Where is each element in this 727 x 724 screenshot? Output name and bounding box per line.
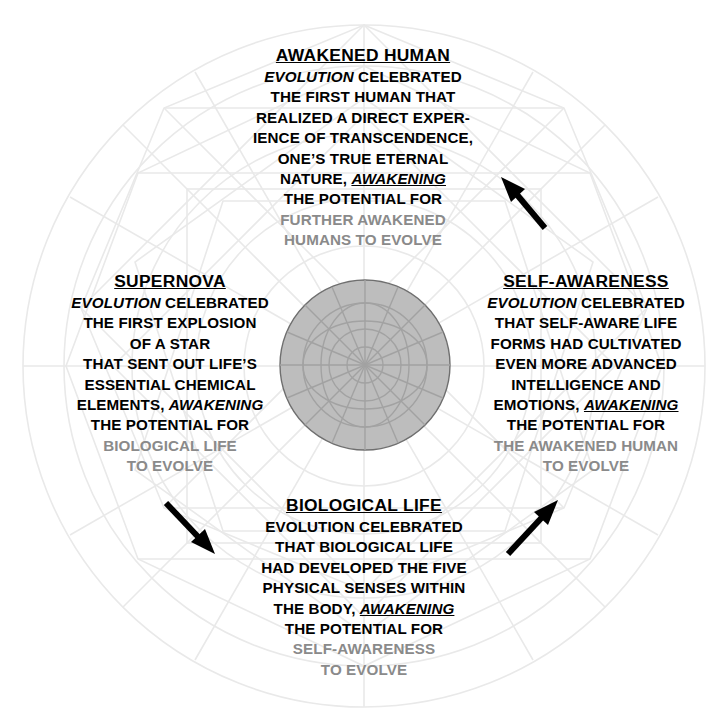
center-spokes bbox=[280, 280, 450, 450]
center-disc-group bbox=[280, 280, 450, 450]
block-supernova: SUPERNOVA EVOLUTION CELEBRATED THE FIRST… bbox=[71, 270, 268, 477]
block-title-self-awareness: SELF-AWARENESS bbox=[487, 270, 684, 293]
block-line-secondary: BIOLOGICAL LIFE bbox=[71, 436, 268, 456]
block-self-awareness: SELF-AWARENESS EVOLUTION CELEBRATED THAT… bbox=[487, 270, 684, 477]
block-line: EVOLUTION CELEBRATED bbox=[253, 67, 473, 87]
emphasis-evolution: EVOLUTION bbox=[71, 294, 161, 311]
block-line: THE FIRST HUMAN THAT bbox=[253, 87, 473, 107]
emphasis-awakening: AWAKENING bbox=[169, 396, 264, 413]
block-line: THE POTENTIAL FOR bbox=[71, 415, 268, 435]
block-line: THAT SELF-AWARE LIFE bbox=[487, 313, 684, 333]
block-line: THE POTENTIAL FOR bbox=[261, 619, 467, 639]
block-title-supernova: SUPERNOVA bbox=[71, 270, 268, 293]
block-line-secondary: TO EVOLVE bbox=[71, 456, 268, 476]
line-trailing: CELEBRATED bbox=[161, 294, 269, 311]
emphasis-evolution: EVOLUTION bbox=[264, 68, 354, 85]
block-title-awakened-human: AWAKENED HUMAN bbox=[253, 44, 473, 67]
block-line: THAT BIOLOGICAL LIFE bbox=[261, 537, 467, 557]
block-line: THE BODY, AWAKENING bbox=[261, 599, 467, 619]
block-line: EVOLUTION CELEBRATED bbox=[261, 517, 467, 537]
block-line: IENCE OF TRANSCENDENCE, bbox=[253, 128, 473, 148]
block-title-biological-life: BIOLOGICAL LIFE bbox=[261, 494, 467, 517]
line-prefix: EMOTIONS, bbox=[493, 396, 583, 413]
block-line: HAD DEVELOPED THE FIVE bbox=[261, 558, 467, 578]
block-line: THE POTENTIAL FOR bbox=[487, 415, 684, 435]
emphasis-awakening: AWAKENING bbox=[584, 396, 679, 413]
block-line: FORMS HAD CULTIVATED bbox=[487, 334, 684, 354]
block-line: THE POTENTIAL FOR bbox=[253, 189, 473, 209]
block-line: EMOTIONS, AWAKENING bbox=[487, 395, 684, 415]
block-line-secondary: THE AWAKENED HUMAN bbox=[487, 436, 684, 456]
block-line: EVOLUTION CELEBRATED bbox=[71, 293, 268, 313]
block-line: REALIZED A DIRECT EXPER- bbox=[253, 108, 473, 128]
block-line: ONE’S TRUE ETERNAL bbox=[253, 149, 473, 169]
line-trailing: CELEBRATED bbox=[577, 294, 685, 311]
block-line: ELEMENTS, AWAKENING bbox=[71, 395, 268, 415]
block-line: NATURE, AWAKENING bbox=[253, 169, 473, 189]
line-prefix: ELEMENTS, bbox=[77, 396, 169, 413]
block-line-secondary: TO EVOLVE bbox=[261, 660, 467, 680]
block-biological-life: BIOLOGICAL LIFE EVOLUTION CELEBRATED THA… bbox=[261, 494, 467, 680]
block-line-secondary: SELF-AWARENESS bbox=[261, 639, 467, 659]
diagram-canvas: AWAKENED HUMAN EVOLUTION CELEBRATED THE … bbox=[0, 0, 727, 724]
block-line: INTELLIGENCE AND bbox=[487, 375, 684, 395]
line-prefix: THE BODY, bbox=[274, 600, 360, 617]
block-line-secondary: HUMANS TO EVOLVE bbox=[253, 230, 473, 250]
block-line: EVEN MORE ADVANCED bbox=[487, 354, 684, 374]
block-line-secondary: TO EVOLVE bbox=[487, 456, 684, 476]
emphasis-awakening: AWAKENING bbox=[351, 170, 446, 187]
block-line: ESSENTIAL CHEMICAL bbox=[71, 375, 268, 395]
block-line: EVOLUTION CELEBRATED bbox=[487, 293, 684, 313]
emphasis-evolution: EVOLUTION bbox=[487, 294, 577, 311]
block-line: OF A STAR bbox=[71, 334, 268, 354]
emphasis-awakening: AWAKENING bbox=[360, 600, 455, 617]
line-trailing: CELEBRATED bbox=[354, 68, 462, 85]
block-line-secondary: FURTHER AWAKENED bbox=[253, 210, 473, 230]
line-prefix: NATURE, bbox=[280, 170, 351, 187]
block-line: THAT SENT OUT LIFE’S bbox=[71, 354, 268, 374]
block-line: PHYSICAL SENSES WITHIN bbox=[261, 578, 467, 598]
block-line: THE FIRST EXPLOSION bbox=[71, 313, 268, 333]
block-awakened-human: AWAKENED HUMAN EVOLUTION CELEBRATED THE … bbox=[253, 44, 473, 251]
